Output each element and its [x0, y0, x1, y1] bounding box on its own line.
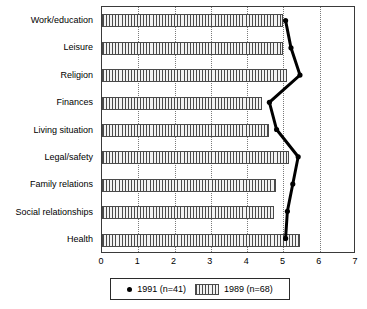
plot-area: [101, 6, 355, 253]
data-point-1991: [283, 18, 288, 23]
dot-marker-icon: [127, 287, 132, 292]
x-tick-label: 0: [98, 256, 103, 266]
category-label: Living situation: [33, 125, 93, 135]
category-axis-labels: Work/educationLeisureReligionFinancesLiv…: [0, 6, 98, 253]
data-point-1991: [288, 45, 293, 50]
x-tick-label: 1: [135, 256, 140, 266]
x-tick-label: 3: [207, 256, 212, 266]
line-1991: [269, 21, 300, 239]
line-series-layer: [102, 7, 354, 252]
x-tick-label: 6: [316, 256, 321, 266]
legend-item-1989: 1989 (n=68): [195, 284, 273, 295]
category-label: Family relations: [30, 179, 93, 189]
category-label: Health: [67, 234, 93, 244]
legend-item-1991: 1991 (n=41): [127, 284, 186, 294]
x-tick-label: 5: [280, 256, 285, 266]
data-point-1991: [283, 236, 288, 241]
legend-label-1989: 1989 (n=68): [224, 284, 273, 294]
data-point-1991: [274, 127, 279, 132]
category-label: Work/education: [31, 15, 93, 25]
chart-legend: 1991 (n=41) 1989 (n=68): [110, 278, 290, 300]
data-point-1991: [296, 154, 301, 159]
category-label: Legal/safety: [44, 152, 93, 162]
category-label: Finances: [56, 97, 93, 107]
x-tick-label: 2: [171, 256, 176, 266]
category-label: Leisure: [63, 42, 93, 52]
x-tick-label: 7: [352, 256, 357, 266]
data-point-1991: [297, 72, 302, 77]
legend-label-1991: 1991 (n=41): [137, 284, 186, 294]
x-tick-label: 4: [244, 256, 249, 266]
data-point-1991: [290, 181, 295, 186]
chart-container: Work/educationLeisureReligionFinancesLiv…: [0, 0, 367, 309]
hatched-swatch-icon: [195, 284, 219, 295]
x-axis: 01234567: [101, 253, 355, 269]
data-point-1991: [285, 209, 290, 214]
category-label: Social relationships: [15, 207, 93, 217]
category-label: Religion: [60, 70, 93, 80]
data-point-1991: [267, 100, 272, 105]
